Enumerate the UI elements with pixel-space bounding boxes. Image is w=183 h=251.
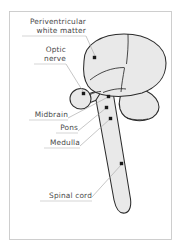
label-spinal-cord: Spinal cord [49, 191, 92, 200]
marker-dot-optic-nerve [82, 92, 85, 95]
marker-dot-medulla [109, 117, 112, 120]
label-midbrain: Midbrain [35, 110, 68, 119]
anatomical-structures-group [70, 34, 166, 213]
label-optic-nerve-line2: nerve [44, 54, 66, 63]
leader-optic-nerve [66, 64, 84, 93]
brain-anatomy-figure: Periventricular white matter Optic nerve… [0, 0, 183, 251]
marker-dot-midbrain [107, 95, 110, 98]
marker-dot-periventricular-white-matter [93, 56, 96, 59]
label-periventricular-white-matter-line1: Periventricular [30, 17, 87, 26]
label-pons: Pons [60, 123, 78, 132]
optic-nerve-shape [70, 89, 91, 110]
marker-dot-spinal-cord [120, 162, 123, 165]
marker-dot-pons [105, 106, 108, 109]
brain-diagram-canvas: Periventricular white matter Optic nerve… [0, 0, 183, 251]
cerebrum-shape [84, 34, 166, 96]
label-periventricular-white-matter-line2: white matter [37, 26, 87, 35]
label-medulla: Medulla [50, 138, 80, 147]
label-optic-nerve-line1: Optic [46, 45, 66, 54]
